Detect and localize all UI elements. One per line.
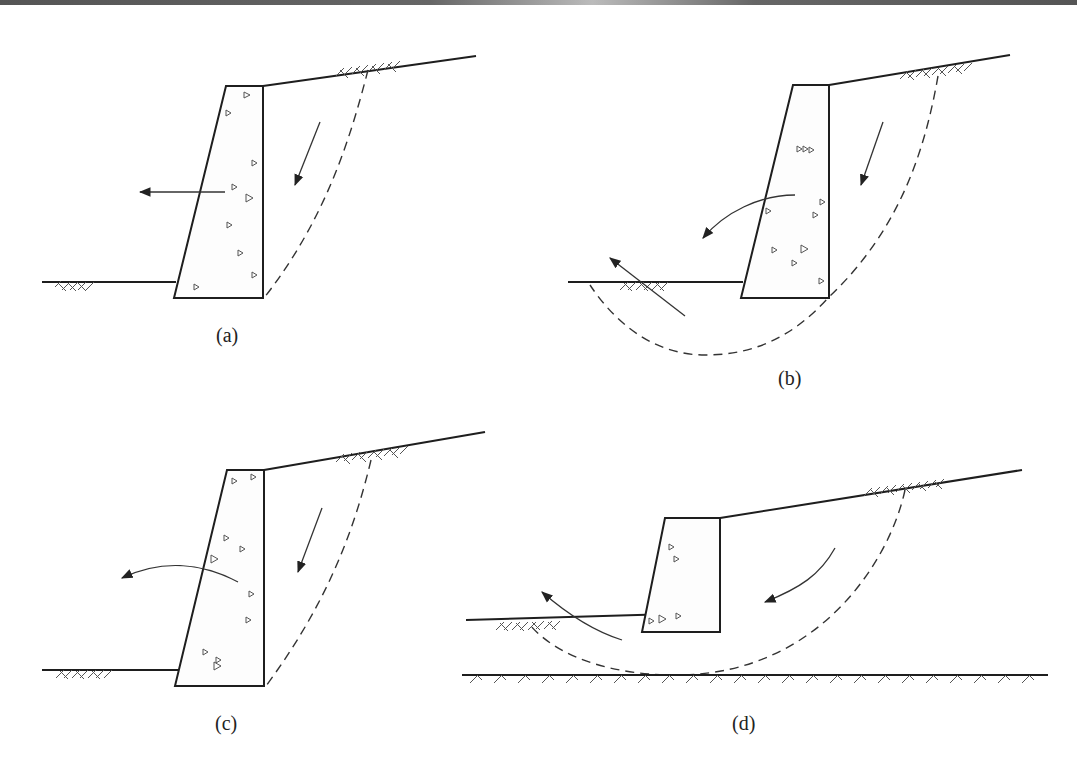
panel-c: (c) bbox=[42, 432, 485, 735]
panel-label-a: (a) bbox=[216, 324, 238, 347]
retaining-wall bbox=[642, 518, 720, 632]
panel-label-b: (b) bbox=[778, 367, 801, 390]
panel-d: (d) bbox=[462, 470, 1048, 735]
panel-label-c: (c) bbox=[215, 712, 237, 735]
panel-b: (b) bbox=[568, 55, 1010, 390]
panel-label-d: (d) bbox=[732, 712, 755, 735]
retaining-wall-failure-figure: (a) (b) bbox=[0, 0, 1077, 767]
retaining-wall bbox=[741, 85, 829, 298]
panel-a: (a) bbox=[42, 56, 476, 347]
retaining-wall bbox=[175, 470, 264, 686]
